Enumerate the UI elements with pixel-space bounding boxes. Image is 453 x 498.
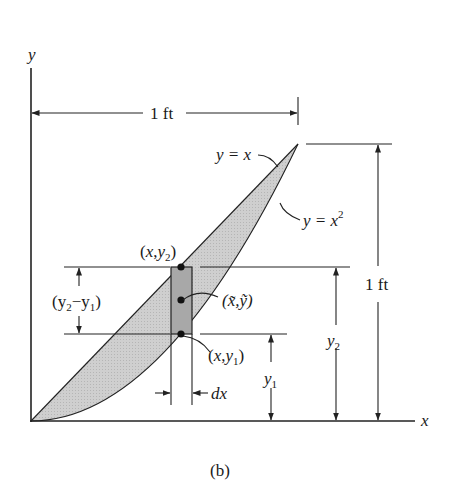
bottom-leader [183, 336, 210, 352]
line-leader [258, 155, 278, 167]
curve-y-equals-x-label: y = x [214, 145, 252, 164]
curve-y-equals-x [31, 144, 298, 421]
point-bottom-label: (x,y1) [208, 346, 244, 367]
strip-height-label: (y2−y1) [52, 292, 101, 313]
point-centroid-label: (x̃,ỹ) [222, 291, 253, 310]
figure-caption: (b) [210, 461, 230, 480]
y1-label: y1 [262, 369, 277, 390]
dx-label: dx [211, 384, 228, 403]
parabola-leader [280, 203, 300, 220]
y-axis-label: y [26, 45, 36, 64]
height-dim-label: 1 ft [365, 275, 388, 294]
area-diagram: y x 1 ft 1 ft (y2−y1) y2 y1 dx (x,y2) (x… [0, 0, 453, 498]
point-top-label: (x,y2) [140, 242, 176, 263]
x-axis-label: x [420, 411, 429, 430]
y2-label: y2 [325, 331, 340, 352]
curve-y-equals-x-squared-label: y = x2 [301, 208, 344, 230]
point-top [177, 263, 184, 270]
width-dim-label: 1 ft [150, 104, 173, 123]
